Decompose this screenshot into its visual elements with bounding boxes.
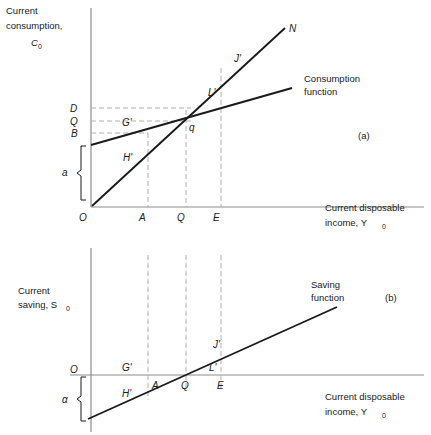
panel-b-point-G-prime: G': [122, 362, 133, 373]
panel-a-x-tick-A: A: [138, 212, 146, 223]
economics-figure: Current consumption, C 0 Current disposa…: [0, 0, 431, 435]
panel-a: Current consumption, C 0 Current disposa…: [6, 5, 424, 230]
panel-a-point-J-prime: J': [233, 53, 242, 64]
panel-a-y-tick-B: B: [71, 128, 78, 139]
panel-a-origin-label: O: [79, 212, 87, 223]
panel-a-y-axis-label-line3-sub: 0: [38, 43, 42, 50]
figure-canvas: Current consumption, C 0 Current disposa…: [0, 0, 431, 435]
panel-b-x-axis-label-line2: income, Y: [325, 406, 368, 417]
panel-a-y-axis-label-line2: consumption,: [6, 20, 63, 31]
panel-b-point-L-prime: L': [209, 362, 218, 373]
panel-b: Current saving, S 0 Current disposable i…: [18, 248, 424, 432]
panel-a-x-axis-label-line1: Current disposable: [325, 202, 405, 213]
panel-a-point-G-prime: G': [122, 117, 133, 128]
panel-b-point-J-prime: J': [212, 339, 221, 350]
panel-a-y-axis-label-line1: Current: [6, 5, 38, 16]
panel-b-y-axis-label-line2-sub: 0: [66, 305, 70, 312]
panel-a-point-H-prime: H': [123, 152, 133, 163]
curve-label-consumption-line2: function: [304, 86, 337, 97]
panel-b-x-tick-Q: Q: [181, 380, 189, 391]
panel-a-point-q: q: [189, 122, 195, 133]
panel-a-y-tick-Q: Q: [70, 116, 78, 127]
panel-b-point-H-prime: H': [122, 388, 132, 399]
panel-a-point-L-prime: L': [208, 87, 217, 98]
panel-a-x-tick-Q: Q: [177, 212, 185, 223]
panel-a-x-axis-label-line2: income, Y: [325, 217, 368, 228]
panel-b-origin-label: O: [70, 364, 78, 375]
panel-a-x-tick-E: E: [213, 212, 220, 223]
panel-b-x-tick-E: E: [217, 380, 224, 391]
panel-b-label: (b): [385, 292, 397, 303]
panel-b-intercept-brace: [77, 377, 86, 421]
panel-a-y-axis-label-line3: C: [31, 37, 38, 48]
panel-a-intercept-brace-label: a: [62, 167, 68, 178]
panel-a-label: (a): [358, 130, 370, 141]
panel-b-intercept-brace-label: α: [62, 394, 68, 405]
panel-b-y-axis-label-line1: Current: [18, 285, 50, 296]
panel-a-y-tick-D: D: [70, 103, 77, 114]
curve-label-saving-line2: function: [311, 292, 344, 303]
panel-b-x-axis-label-line2-sub: 0: [382, 412, 386, 419]
curve-label-consumption-line1: Consumption: [304, 73, 360, 84]
panel-b-x-tick-A: A: [151, 380, 159, 391]
curve-label-N: N: [289, 23, 297, 34]
panel-a-x-axis-label-line2-sub: 0: [382, 223, 386, 230]
panel-a-intercept-brace: [77, 146, 86, 200]
curve-label-saving-line1: Saving: [311, 279, 340, 290]
panel-b-x-axis-label-line1: Current disposable: [325, 391, 405, 402]
panel-b-y-axis-label-line2: saving, S: [18, 299, 57, 310]
